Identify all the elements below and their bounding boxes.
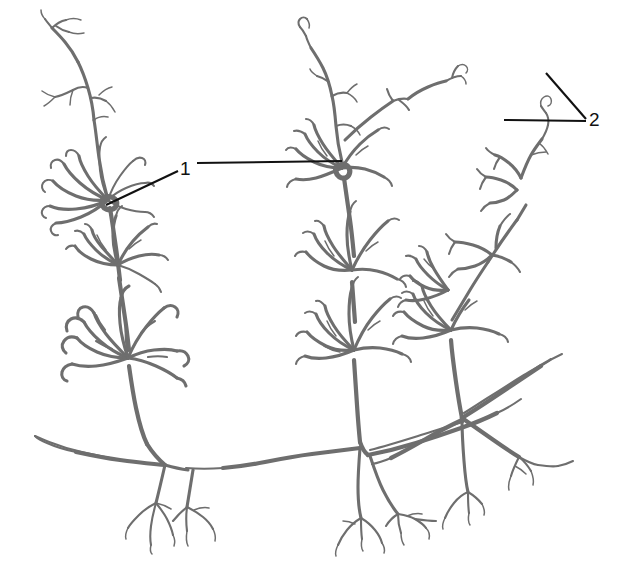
leader-1-right [197,161,342,163]
neuron-drawing [0,0,622,561]
leader-1-left [106,171,178,205]
leader-2-lower [504,120,586,121]
neuron-figure: 1 2 [0,0,622,561]
callout-label-1: 1 [180,159,191,178]
callout-label-2: 2 [589,110,600,129]
neuron-right [372,96,573,529]
neuron-left [35,10,215,554]
leader-2-upper [546,73,586,119]
